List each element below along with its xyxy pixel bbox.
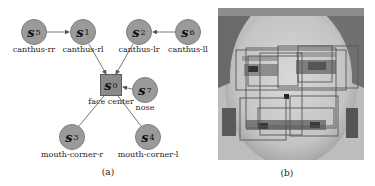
- node-s6: s6: [175, 19, 201, 45]
- label-s0: face center: [88, 97, 134, 106]
- node-s2: s2: [126, 19, 152, 45]
- node-s4: s4: [135, 124, 161, 150]
- caption-a: (a): [102, 167, 114, 177]
- label-s5: canthus-rr: [13, 45, 55, 54]
- label-s3: mouth-corner-r: [41, 150, 103, 159]
- node-s0: s0: [100, 74, 122, 96]
- label-s1: canthus-rl: [62, 45, 103, 54]
- node-s3: s3: [59, 124, 85, 150]
- label-s6: canthus-ll: [168, 45, 208, 54]
- caption-b: (b): [281, 168, 294, 178]
- label-s4: mouth-corner-l: [118, 150, 179, 159]
- node-s7: s7: [132, 77, 158, 103]
- face-rendering: [218, 8, 364, 160]
- face-image: [218, 8, 364, 160]
- node-s5: s5: [21, 19, 47, 45]
- edge-s7-s0: [123, 87, 132, 89]
- panel-a-graph: s5 canthus-rr s1 canthus-rl s2 canthus-l…: [0, 0, 210, 186]
- node-s1: s1: [70, 19, 96, 45]
- label-s7: nose: [136, 103, 155, 112]
- label-s2: canthus-lr: [118, 45, 159, 54]
